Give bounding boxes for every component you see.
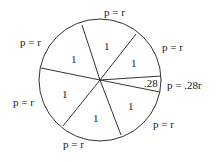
arc-label: p = r [63,138,84,150]
sector-value: 1 [71,53,77,65]
spoke-left [41,68,100,80]
arc-label: p = r [162,41,183,53]
sector-value: 1 [62,88,68,100]
spokes [41,25,161,135]
sector-value: .28 [144,77,158,89]
arc-label: p = r [104,6,125,18]
sector-value: 1 [104,40,110,52]
sector-value: 1 [93,112,99,124]
arc-label: p = .28r [167,79,202,91]
spoke-bottom-right [100,80,121,135]
arc-label: p = r [153,118,174,130]
arc-label: p = r [20,36,41,48]
spoke-top [82,25,100,80]
sector-value: 1 [128,100,134,112]
arc-label: p = r [13,96,34,108]
sector-value: 1 [131,57,137,69]
circle-radian-diagram: 1 1 .28 1 1 1 1 p = r p = r p = .28r p =… [0,0,218,162]
